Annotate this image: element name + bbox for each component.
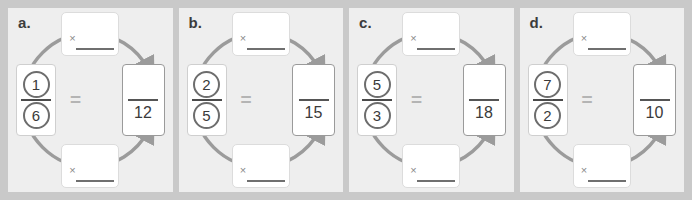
source-fraction-card-b: 2 5 (187, 64, 227, 136)
equals-sign-b: = (241, 89, 252, 111)
multiply-icon: × (581, 32, 587, 44)
denominator-circle-c: 3 (364, 102, 391, 129)
bottom-multiplier-blank-b[interactable] (247, 180, 285, 182)
result-fraction-bar-c (469, 99, 499, 101)
bottom-multiplier-box-c[interactable]: × (402, 144, 460, 188)
bottom-multiplier-blank-d[interactable] (588, 180, 626, 182)
multiply-icon: × (581, 164, 587, 176)
multiply-icon: × (240, 164, 246, 176)
equivalent-fractions-worksheet: a. × (0, 0, 692, 200)
fraction-bar-a (21, 99, 51, 101)
equals-sign-d: = (582, 89, 593, 111)
bottom-multiplier-box-d[interactable]: × (573, 144, 631, 188)
result-fraction-card-a[interactable]: 12 (122, 64, 165, 136)
bottom-multiplier-box-a[interactable]: × (61, 144, 119, 188)
numerator-circle-c: 5 (364, 71, 391, 98)
equals-sign-a: = (70, 89, 81, 111)
problem-label-c: c. (359, 14, 372, 31)
result-fraction-card-d[interactable]: 10 (633, 64, 676, 136)
multiply-icon: × (410, 32, 416, 44)
problem-panel-c[interactable]: c. × (349, 8, 514, 192)
result-fraction-bar-d (640, 99, 670, 101)
multiply-icon: × (69, 32, 75, 44)
numerator-circle-a: 1 (23, 71, 50, 98)
multiply-icon: × (240, 32, 246, 44)
result-denominator-a: 12 (134, 102, 152, 124)
numerator-circle-b: 2 (193, 71, 220, 98)
problem-label-d: d. (530, 14, 544, 31)
problem-label-a: a. (18, 14, 31, 31)
denominator-circle-d: 2 (534, 102, 561, 129)
top-multiplier-box-a[interactable]: × (61, 12, 119, 56)
source-fraction-card-d: 7 2 (528, 64, 568, 136)
top-multiplier-box-d[interactable]: × (573, 12, 631, 56)
problem-panel-b[interactable]: b. × (179, 8, 344, 192)
multiply-icon: × (410, 164, 416, 176)
result-fraction-bar-a (128, 99, 158, 101)
top-multiplier-blank-b[interactable] (247, 48, 285, 50)
source-fraction-card-a: 1 6 (16, 64, 56, 136)
bottom-multiplier-box-b[interactable]: × (232, 144, 290, 188)
result-denominator-c: 18 (475, 102, 493, 124)
source-fraction-card-c: 5 3 (357, 64, 397, 136)
problem-label-b: b. (189, 14, 203, 31)
top-multiplier-blank-c[interactable] (417, 48, 455, 50)
denominator-circle-a: 6 (23, 102, 50, 129)
result-denominator-d: 10 (646, 102, 664, 124)
fraction-bar-d (533, 99, 563, 101)
bottom-multiplier-blank-a[interactable] (76, 180, 114, 182)
result-fraction-card-b[interactable]: 15 (292, 64, 335, 136)
multiply-icon: × (69, 164, 75, 176)
problem-panel-row: a. × (8, 8, 684, 192)
numerator-circle-d: 7 (534, 71, 561, 98)
top-multiplier-blank-d[interactable] (588, 48, 626, 50)
problem-panel-d[interactable]: d. × (520, 8, 685, 192)
bottom-multiplier-blank-c[interactable] (417, 180, 455, 182)
top-multiplier-box-c[interactable]: × (402, 12, 460, 56)
result-fraction-card-c[interactable]: 18 (463, 64, 506, 136)
top-multiplier-blank-a[interactable] (76, 48, 114, 50)
fraction-bar-c (362, 99, 392, 101)
problem-panel-a[interactable]: a. × (8, 8, 173, 192)
fraction-bar-b (192, 99, 222, 101)
denominator-circle-b: 5 (193, 102, 220, 129)
equals-sign-c: = (411, 89, 422, 111)
result-fraction-bar-b (299, 99, 329, 101)
top-multiplier-box-b[interactable]: × (232, 12, 290, 56)
result-denominator-b: 15 (305, 102, 323, 124)
